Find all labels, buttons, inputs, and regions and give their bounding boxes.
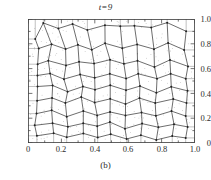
mesh-plot-svg	[28, 19, 195, 143]
x-tick-label: 0.4	[83, 145, 107, 153]
x-tick-label: 0.8	[150, 145, 174, 153]
figure-panel: t=9 1.0 0.8 0.6 0.4 0.2 0 0 0.2 0.4 0.6 …	[0, 0, 211, 180]
x-tick-label: 1.0	[183, 145, 207, 153]
x-tick-label: 0	[16, 145, 40, 153]
plot-area	[28, 19, 195, 143]
x-tick-label: 0.6	[116, 145, 140, 153]
figure-title: t=9	[0, 2, 211, 12]
figure-caption: (b)	[0, 160, 211, 170]
x-tick-label: 0.2	[49, 145, 73, 153]
